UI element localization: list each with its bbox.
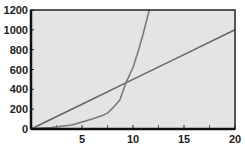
y-tick-label: 800 [10, 44, 28, 56]
y-axis-ticks: 020040060080010001200 [4, 4, 34, 135]
y-tick-label: 1000 [4, 24, 28, 36]
x-tick-label: 10 [127, 133, 139, 145]
y-tick-label: 400 [10, 83, 28, 95]
x-tick-label: 15 [178, 133, 190, 145]
x-tick-label: 5 [79, 133, 85, 145]
y-tick-label: 200 [10, 103, 28, 115]
plot-area [31, 10, 235, 129]
y-tick-label: 600 [10, 64, 28, 76]
line-chart: 020040060080010001200 5101520 [0, 0, 245, 152]
x-tick-label: 20 [229, 133, 241, 145]
y-tick-label: 0 [22, 123, 28, 135]
y-tick-label: 1200 [4, 4, 28, 16]
